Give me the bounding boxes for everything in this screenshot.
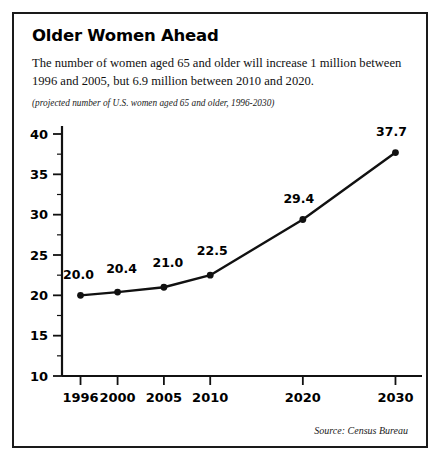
y-axis-tick-label: 30	[30, 207, 48, 222]
data-point-label: 37.7	[376, 124, 407, 139]
y-axis: 40353025201510	[30, 126, 62, 384]
data-point-label: 29.4	[283, 191, 314, 206]
y-axis-tick-label: 25	[30, 248, 48, 263]
y-axis-tick-label: 40	[30, 127, 48, 142]
x-axis-tick-label: 2030	[377, 390, 413, 405]
x-axis: 199620002005201020202030	[62, 376, 422, 405]
y-axis-tick-label: 20	[30, 288, 48, 303]
chart-panel: Older Women Ahead The number of women ag…	[12, 12, 428, 448]
source-attribution: Source: Census Bureau	[314, 425, 408, 436]
y-axis-tick-label: 35	[30, 167, 48, 182]
data-point-marker	[160, 284, 167, 291]
data-point-marker	[299, 216, 306, 223]
data-point-marker	[114, 289, 121, 296]
x-axis-tick-label: 2000	[99, 390, 135, 405]
page-title: Older Women Ahead	[32, 26, 219, 45]
data-point-marker	[207, 272, 214, 279]
data-point-marker	[392, 149, 399, 156]
x-axis-tick-label: 2010	[192, 390, 228, 405]
data-point-label: 20.0	[63, 267, 94, 282]
data-series	[77, 149, 399, 299]
x-axis-tick-label: 1996	[62, 390, 98, 405]
data-point-label: 21.0	[152, 255, 183, 270]
chart-description: The number of women aged 65 and older wi…	[32, 55, 412, 91]
chart-subtitle: (projected number of U.S. women aged 65 …	[32, 98, 412, 108]
line-chart-svg: 40353025201510 199620002005201020202030 …	[14, 118, 426, 418]
data-point-label: 20.4	[106, 261, 137, 276]
y-axis-tick-label: 15	[30, 328, 48, 343]
x-axis-tick-label: 2005	[146, 390, 182, 405]
data-point-marker	[77, 292, 84, 299]
data-point-label: 22.5	[197, 243, 228, 258]
x-axis-tick-label: 2020	[285, 390, 321, 405]
y-axis-tick-label: 10	[30, 369, 48, 384]
data-point-labels: 20.020.421.022.529.437.7	[63, 124, 407, 283]
chart-plot-area: 40353025201510 199620002005201020202030 …	[14, 118, 426, 418]
